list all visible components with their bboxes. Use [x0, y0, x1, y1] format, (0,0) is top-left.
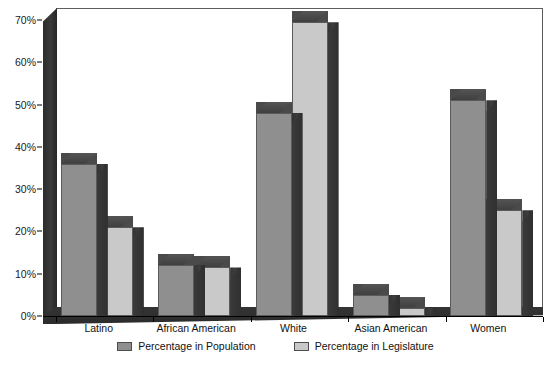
x-axis-tick-mark [348, 317, 349, 322]
bar-side-face [522, 210, 533, 316]
chart-legend: Percentage in Population Percentage in L… [0, 340, 551, 352]
x-axis-category-label: White [280, 322, 307, 334]
bar-side-face-inner [328, 22, 339, 316]
x-axis-category-label: Latino [84, 322, 113, 334]
bar-side-face-inner [133, 227, 144, 316]
bar-side-face [486, 100, 497, 316]
bar-side-face-inner [194, 265, 205, 316]
y-axis-tick-label: 50% [15, 99, 36, 111]
y-axis-tick-label: 60% [15, 56, 36, 68]
bar-top-face-inner [353, 284, 389, 295]
bar-side-face-inner [425, 308, 436, 316]
bar-top-face [61, 153, 97, 164]
bar-side-face-inner [522, 210, 533, 316]
y-axis-tick-mark [37, 189, 42, 190]
bar-side-face [425, 308, 436, 316]
bar-side-face-inner [292, 113, 303, 316]
bar-side-face [328, 22, 339, 316]
y-axis-tick-label: 0% [21, 310, 36, 322]
bar-side-face [292, 113, 303, 316]
bar-side-face [194, 265, 205, 316]
y-axis-tick-label: 40% [15, 141, 36, 153]
bar-front-face [353, 295, 389, 316]
legend-item-population: Percentage in Population [117, 340, 255, 352]
y-axis: 0%10%20%30%40%50%60%70% [0, 0, 36, 330]
chart-container: 0%10%20%30%40%50%60%70% LatinoAfrican Am… [0, 0, 551, 367]
legend-label-legislature: Percentage in Legislature [315, 340, 434, 352]
x-axis-category-label: Asian American [354, 322, 427, 334]
bar-top-face-inner [158, 254, 194, 265]
bar-top-face [158, 254, 194, 265]
y-axis-tick-mark [37, 62, 42, 63]
bars-layer [43, 8, 543, 316]
y-axis-tick-mark [37, 146, 42, 147]
y-axis-tick-mark [37, 104, 42, 105]
bar-white-population [256, 113, 292, 316]
bar-side-face [230, 267, 241, 316]
x-axis-tick-mark [251, 317, 252, 322]
y-axis-tick-mark [37, 20, 42, 21]
bar-asian-american-population [353, 295, 389, 316]
y-axis-tick-label: 70% [15, 14, 36, 26]
legend-item-legislature: Percentage in Legislature [294, 340, 434, 352]
bar-front-face [61, 164, 97, 316]
legend-label-population: Percentage in Population [138, 340, 255, 352]
y-axis-tick-label: 10% [15, 268, 36, 280]
bar-side-face [97, 164, 108, 316]
bar-top-face [256, 102, 292, 113]
y-axis-tick-mark [37, 316, 42, 317]
bar-top-face-inner [61, 153, 97, 164]
legend-swatch-legislature-icon [294, 342, 309, 351]
bar-side-face-inner [230, 267, 241, 316]
bar-latino-population [61, 164, 97, 316]
y-axis-tick-label: 20% [15, 225, 36, 237]
y-axis-tick-mark [37, 231, 42, 232]
x-axis-tick-mark [446, 317, 447, 322]
bar-top-face [292, 11, 328, 22]
x-axis-category-label: African American [156, 322, 235, 334]
bar-top-face [353, 284, 389, 295]
bar-side-face-inner [389, 295, 400, 316]
x-axis-line [43, 316, 543, 317]
y-axis-tick-mark [37, 273, 42, 274]
bar-side-face-inner [486, 100, 497, 316]
x-axis-tick-mark [153, 317, 154, 322]
bar-side-face [133, 227, 144, 316]
legend-swatch-population-icon [117, 342, 132, 351]
x-axis-tick-mark [543, 317, 544, 322]
bar-top-face-inner [256, 102, 292, 113]
bar-side-face [389, 295, 400, 316]
bar-side-face-inner [97, 164, 108, 316]
x-axis-category-label: Women [470, 322, 506, 334]
bar-african-american-population [158, 265, 194, 316]
bar-women-population [450, 100, 486, 316]
bar-top-face [450, 89, 486, 100]
bar-front-face [450, 100, 486, 316]
y-axis-tick-label: 30% [15, 183, 36, 195]
bar-front-face [158, 265, 194, 316]
bar-front-face [256, 113, 292, 316]
x-axis-tick-mark [56, 317, 57, 322]
bar-top-face-inner [292, 11, 328, 22]
bar-top-face-inner [450, 89, 486, 100]
